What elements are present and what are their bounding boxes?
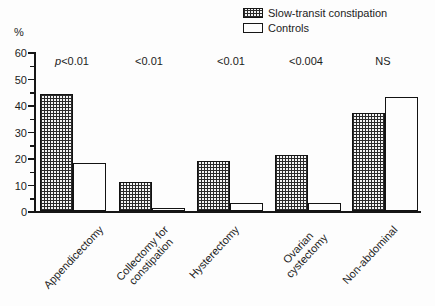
legend-item-controls: Controls [243,21,387,35]
legend-label-controls: Controls [268,22,309,34]
p-value-annotation-0: p<0.01 [30,55,114,67]
y-tick-label: 30 [6,127,27,139]
y-tick-major [28,132,35,134]
x-label-4: Non-abdominal [341,224,400,286]
y-tick-major [28,158,35,160]
bar-slow-transit-3 [275,155,308,211]
bar-slow-transit-4 [352,113,385,211]
legend-item-slow-transit: Slow-transit constipation [243,6,387,20]
p-value-annotation-3: <0.004 [264,55,348,67]
x-label-0: Appendicectomy [42,224,106,291]
y-tick-major [28,211,35,213]
legend-label-slow-transit: Slow-transit constipation [268,7,387,19]
y-tick-label: 50 [6,74,27,86]
x-label-3: Ovarian cystectomy [275,224,329,280]
bar-slow-transit-1 [119,182,152,211]
bar-controls-0 [73,163,106,211]
p-value-annotation-1: <0.01 [107,55,191,67]
bar-slow-transit-0 [40,94,73,211]
y-tick-label: 20 [6,153,27,165]
y-axis-unit-label: % [14,26,24,38]
y-tick-minor [30,119,35,121]
y-tick-major [28,185,35,187]
y-tick-minor [30,198,35,200]
legend: Slow-transit constipation Controls [243,6,387,36]
x-axis [34,211,421,213]
crosshatch-swatch [243,8,263,18]
y-tick-minor [30,92,35,94]
bar-controls-1 [152,208,185,211]
y-tick-label: 60 [6,47,27,59]
white-swatch [243,23,263,33]
y-tick-major [28,105,35,107]
y-tick-label: 0 [6,206,27,218]
y-tick-major [28,52,35,54]
x-label-1: Collectomy for constipation [114,224,179,291]
p-value-annotation-4: NS [341,55,425,67]
bar-chart-figure: % Slow-transit constipation Controls 010… [0,0,435,306]
bar-controls-3 [308,203,341,211]
y-tick-label: 40 [6,100,27,112]
bar-controls-4 [385,97,418,211]
y-tick-major [28,79,35,81]
y-tick-label: 10 [6,180,27,192]
bar-controls-2 [230,203,263,211]
y-tick-minor [30,172,35,174]
x-label-2: Hysterectomy [187,224,241,281]
bar-slow-transit-2 [197,161,230,211]
p-value-annotation-2: <0.01 [189,55,273,67]
y-tick-minor [30,145,35,147]
